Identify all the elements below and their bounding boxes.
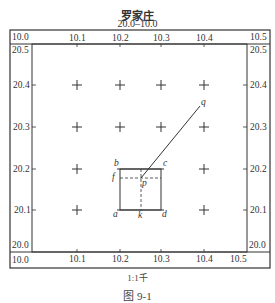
top-tick-label: 10.3 xyxy=(153,33,170,43)
grid-crosses xyxy=(72,80,209,215)
corner-bottom-left-y: 20.0 xyxy=(12,240,29,250)
right-tick-label: 20.2 xyxy=(250,164,267,174)
point-label-f: f xyxy=(112,172,115,182)
outer-frame xyxy=(10,30,270,268)
corner-top-left-y: 20.5 xyxy=(12,45,29,55)
bottom-tick-label: 10.2 xyxy=(112,254,129,264)
point-label-c: c xyxy=(163,158,167,168)
point-label-p: p xyxy=(142,178,147,188)
left-ticks xyxy=(32,85,36,210)
left-tick-label: 20.4 xyxy=(13,80,30,90)
bottom-tick-label: 10.3 xyxy=(153,254,170,264)
corner-top-right-x: 10.5 xyxy=(250,32,267,42)
right-ticks xyxy=(243,85,247,210)
point-label-b: b xyxy=(114,158,119,168)
right-tick-label: 20.4 xyxy=(250,80,267,90)
left-tick-label: 20.1 xyxy=(14,205,31,215)
point-label-a: a xyxy=(113,209,118,219)
corner-bottom-right-y: 20.0 xyxy=(249,240,266,250)
figure-caption: 图 9-1 xyxy=(0,287,275,303)
inner-frame xyxy=(32,44,247,252)
corner-top-right-y: 20.5 xyxy=(250,45,267,55)
top-tick-label: 10.1 xyxy=(69,33,86,43)
left-tick-label: 20.2 xyxy=(13,164,30,174)
top-tick-label: 10.2 xyxy=(112,33,129,43)
corner-bottom-left-x: 10.0 xyxy=(12,255,29,265)
right-tick-label: 20.1 xyxy=(250,205,267,215)
point-label-k: k xyxy=(138,210,142,220)
map-scale: 1:1千 xyxy=(0,271,275,284)
bottom-tick-label: 10.5 xyxy=(230,254,247,264)
bottom-tick-label: 10.1 xyxy=(69,254,86,264)
corner-top-left-x: 10.0 xyxy=(12,32,29,42)
point-label-q: q xyxy=(201,97,206,107)
left-tick-label: 20.3 xyxy=(13,122,30,132)
point-label-d: d xyxy=(162,209,167,219)
top-tick-label: 10.4 xyxy=(196,33,213,43)
sheet-number: 20.0–10.0 xyxy=(0,18,275,29)
right-tick-label: 20.3 xyxy=(250,122,267,132)
grid-square-abcd xyxy=(120,169,161,210)
line-pq xyxy=(141,106,200,178)
bottom-tick-label: 10.4 xyxy=(196,254,213,264)
